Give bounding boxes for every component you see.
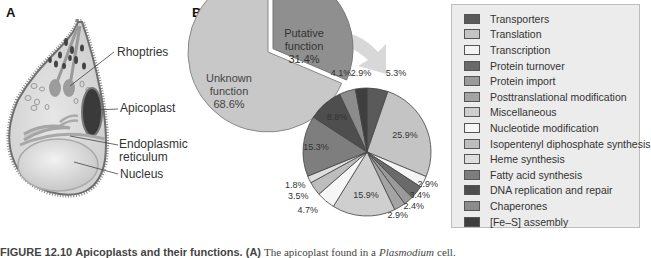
legend-swatch xyxy=(464,29,480,39)
caption-part: (A) xyxy=(246,246,261,258)
legend-swatch xyxy=(464,76,480,86)
slice-label: 25.9% xyxy=(392,130,418,140)
legend-item: Chaperones xyxy=(464,198,639,214)
pie-charts: Putativefunction31.4%Unknownfunction68.6… xyxy=(0,0,450,240)
legend-label: Chaperones xyxy=(490,200,547,212)
legend-label: Fatty acid synthesis xyxy=(490,169,582,181)
svg-text:Putative: Putative xyxy=(284,27,324,39)
slice-label: 3.4% xyxy=(409,190,430,200)
caption-text: The apicoplast found in a xyxy=(264,246,376,258)
legend-label: Isopentenyl diphosphate synthesis xyxy=(490,138,651,150)
legend-item: Transcription xyxy=(464,42,639,58)
svg-text:Unknown: Unknown xyxy=(206,72,252,84)
legend-label: Protein turnover xyxy=(490,60,565,72)
legend-label: [Fe–S] assembly xyxy=(490,216,568,228)
legend-item: Isopentenyl diphosphate synthesis xyxy=(464,136,639,152)
legend-swatch xyxy=(464,154,480,164)
legend: TransportersTranslationTranscriptionProt… xyxy=(451,4,640,228)
legend-swatch xyxy=(464,61,480,71)
legend-item: Transporters xyxy=(464,11,639,27)
legend-label: Miscellaneous xyxy=(490,106,557,118)
legend-item: Protein turnover xyxy=(464,58,639,74)
legend-item: Nucleotide modification xyxy=(464,120,639,136)
caption-figure-number: FIGURE 12.10 xyxy=(0,246,72,258)
svg-text:function: function xyxy=(285,40,324,52)
legend-swatch xyxy=(464,45,480,55)
legend-swatch xyxy=(464,217,480,227)
slice-label: 8.8% xyxy=(327,112,348,122)
legend-swatch xyxy=(464,92,480,102)
legend-label: Nucleotide modification xyxy=(490,122,599,134)
legend-label: Protein import xyxy=(490,75,555,87)
caption-title: Apicoplasts and their functions. xyxy=(75,246,242,258)
legend-label: Transporters xyxy=(490,13,549,25)
slice-label: 4.7% xyxy=(297,205,318,215)
slice-label: 1.8% xyxy=(285,180,306,190)
caption-organism: Plasmodium xyxy=(379,246,434,258)
legend-swatch xyxy=(464,139,480,149)
legend-swatch xyxy=(464,185,480,195)
svg-text:68.6%: 68.6% xyxy=(213,98,244,110)
legend-label: DNA replication and repair xyxy=(490,184,613,196)
legend-item: Miscellaneous xyxy=(464,105,639,121)
legend-label: Posttranslational modification xyxy=(490,91,627,103)
caption-end: cell. xyxy=(437,246,456,258)
legend-swatch xyxy=(464,107,480,117)
legend-swatch xyxy=(464,14,480,24)
legend-label: Transcription xyxy=(490,44,550,56)
legend-item: [Fe–S] assembly xyxy=(464,214,639,230)
svg-text:31.4%: 31.4% xyxy=(288,53,319,65)
legend-swatch xyxy=(464,123,480,133)
slice-label: 2.9% xyxy=(351,68,372,78)
legend-label: Translation xyxy=(490,28,542,40)
legend-item: Heme synthesis xyxy=(464,151,639,167)
legend-label: Heme synthesis xyxy=(490,153,565,165)
slice-label: 15.3% xyxy=(303,142,329,152)
legend-item: Translation xyxy=(464,27,639,43)
legend-item: DNA replication and repair xyxy=(464,183,639,199)
legend-item: Fatty acid synthesis xyxy=(464,167,639,183)
slice-label: 4.1% xyxy=(331,68,352,78)
svg-text:function: function xyxy=(210,85,249,97)
slice-label: 3.5% xyxy=(288,191,309,201)
slice-label: 5.3% xyxy=(386,68,407,78)
legend-item: Posttranslational modification xyxy=(464,89,639,105)
legend-item: Protein import xyxy=(464,73,639,89)
legend-swatch xyxy=(464,170,480,180)
slice-label: 15.9% xyxy=(353,190,379,200)
figure-caption: FIGURE 12.10 Apicoplasts and their funct… xyxy=(0,246,456,258)
legend-swatch xyxy=(464,201,480,211)
